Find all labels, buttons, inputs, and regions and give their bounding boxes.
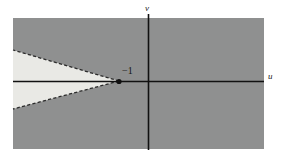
complex-plane-figure: v u −1 [0, 0, 284, 164]
marked-point-label: −1 [122, 66, 133, 76]
v-axis-label: v [145, 4, 149, 13]
u-axis-label: u [268, 72, 273, 81]
marked-point-dot [116, 79, 121, 84]
plot-canvas [0, 0, 284, 164]
